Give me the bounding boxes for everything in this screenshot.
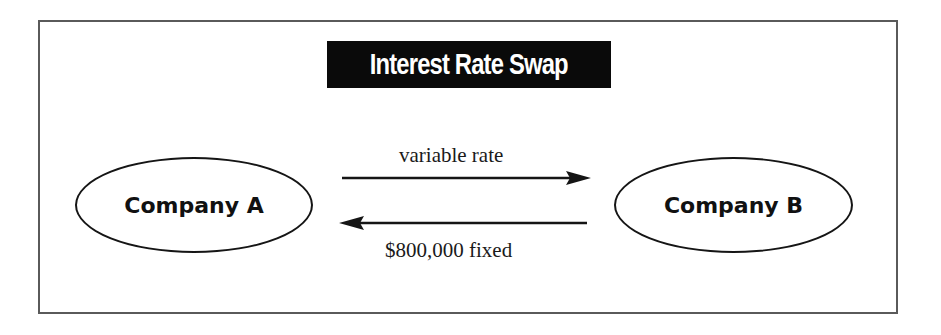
edge-label-variable-rate: variable rate: [399, 143, 503, 168]
arrow-right-icon: [342, 171, 591, 185]
arrow-left-icon: [339, 216, 587, 230]
edge-label-fixed-payment: $800,000 fixed: [385, 238, 512, 263]
